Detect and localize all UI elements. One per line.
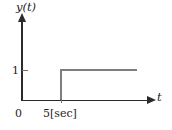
step-rising-edge — [60, 69, 62, 100]
y-axis-line — [21, 21, 23, 101]
y-axis-label: y(t) — [16, 2, 36, 14]
y-axis-tick-label-one: 1 — [12, 65, 19, 76]
y-axis-tick-one — [22, 70, 28, 71]
x-axis-tick-label-five: 5[sec] — [43, 108, 77, 119]
step-plateau-segment — [60, 69, 137, 71]
x-axis-arrowhead-icon — [147, 96, 156, 104]
x-axis-label: t — [157, 92, 162, 104]
x-axis-tick-label-zero: 0 — [15, 108, 22, 119]
y-axis-arrowhead-icon — [18, 13, 26, 22]
step-response-plot: y(t) t 1 0 5[sec] — [0, 0, 172, 130]
x-axis-line — [21, 100, 149, 102]
